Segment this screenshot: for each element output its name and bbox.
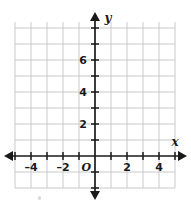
y-tick-label-4: 4	[79, 86, 87, 99]
y-axis-positive-arrow	[90, 12, 100, 21]
x-axis-negative-arrow	[4, 151, 13, 161]
scan-artifact-speck	[38, 196, 41, 200]
x-tick-label-2: 2	[123, 161, 131, 174]
y-tick-label-6: 6	[79, 54, 87, 67]
x-tick-label-minus2: –2	[56, 161, 69, 174]
y-axis-name-label: y	[104, 11, 113, 25]
coordinate-plane-svg: –4 –2 2 4 2 4 6 O x y	[0, 0, 191, 205]
x-tick-label-minus4: –4	[24, 161, 38, 174]
coordinate-plane-figure: –4 –2 2 4 2 4 6 O x y	[0, 0, 191, 205]
y-axis-negative-arrow	[90, 191, 100, 200]
origin-label: O	[81, 161, 91, 174]
x-axis-name-label: x	[170, 135, 179, 149]
x-axis-positive-arrow	[178, 151, 187, 161]
y-axis-tick-labels: 2 4 6	[79, 54, 87, 131]
x-tick-label-4: 4	[155, 161, 163, 174]
y-tick-label-2: 2	[79, 118, 87, 131]
